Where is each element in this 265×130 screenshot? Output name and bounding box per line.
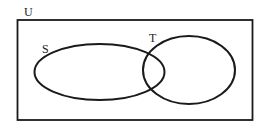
- universe-rectangle: [18, 20, 253, 120]
- venn-diagram: U S T: [0, 0, 265, 130]
- set-t-ellipse: [143, 36, 235, 104]
- set-t-label: T: [149, 31, 157, 45]
- set-s-ellipse: [35, 44, 165, 100]
- universe-label: U: [24, 5, 33, 19]
- set-s-label: S: [42, 42, 49, 56]
